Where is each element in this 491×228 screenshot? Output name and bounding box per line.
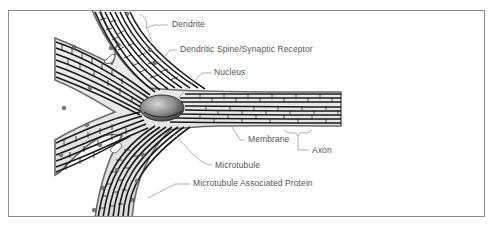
label-dendrite: Dendrite (172, 19, 205, 29)
label-microtubule: Microtubule (215, 160, 260, 170)
label-nucleus: Nucleus (214, 67, 245, 77)
label-microtubule-associated-protein: Microtubule Associated Protein (193, 178, 313, 188)
neuron-illustration (0, 0, 491, 228)
label-membrane: Membrane (248, 134, 289, 144)
label-axon: Axon (312, 145, 332, 155)
label-dendritic-spine: Dendritic Spine/Synaptic Receptor (180, 44, 313, 54)
